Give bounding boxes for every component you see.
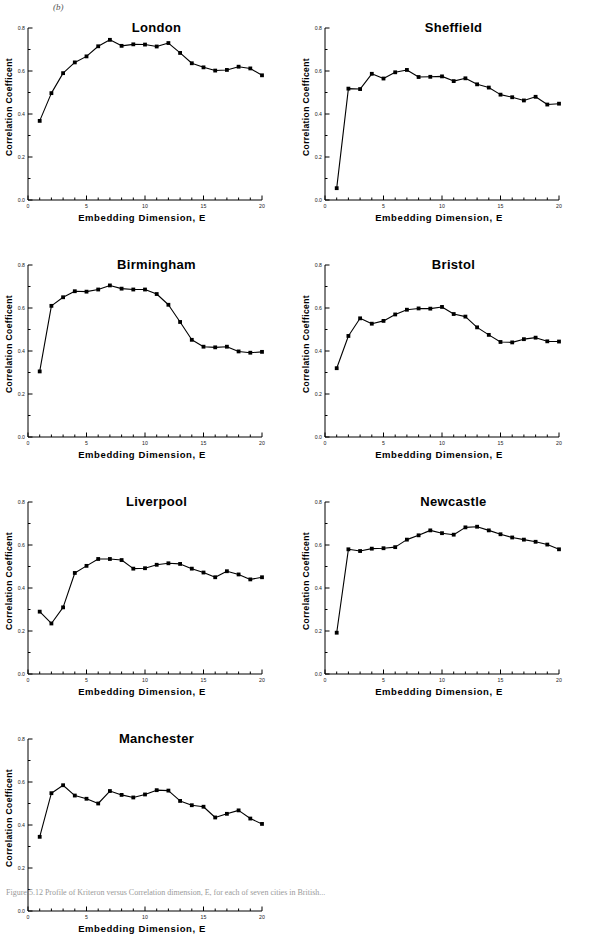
svg-text:0: 0 [324, 203, 327, 209]
svg-text:0.8: 0.8 [315, 499, 322, 505]
svg-text:0: 0 [27, 440, 30, 446]
svg-text:0.8: 0.8 [315, 25, 322, 31]
svg-text:0: 0 [324, 440, 327, 446]
svg-text:0.4: 0.4 [18, 585, 25, 591]
svg-text:5: 5 [382, 677, 385, 683]
svg-text:5: 5 [382, 440, 385, 446]
svg-text:0.6: 0.6 [18, 305, 25, 311]
svg-text:10: 10 [439, 203, 445, 209]
svg-text:15: 15 [201, 440, 207, 446]
chart-svg: 0.00.20.40.60.805101520 [297, 488, 594, 688]
chart-panel-birmingham: Birmingham Correlation Coefficent 0.00.2… [0, 251, 297, 488]
svg-text:0.6: 0.6 [315, 305, 322, 311]
svg-text:15: 15 [201, 914, 207, 920]
x-axis-label: Embedding Dimension, E [22, 449, 262, 460]
svg-text:0.6: 0.6 [18, 542, 25, 548]
svg-text:0: 0 [27, 203, 30, 209]
svg-text:10: 10 [142, 677, 148, 683]
chart-panel-newcastle: Newcastle Correlation Coefficent 0.00.20… [297, 488, 594, 725]
chart-svg: 0.00.20.40.60.805101520 [0, 488, 297, 688]
chart-svg: 0.00.20.40.60.805101520 [0, 251, 297, 451]
svg-text:20: 20 [259, 440, 265, 446]
svg-text:0.2: 0.2 [18, 628, 25, 634]
svg-text:15: 15 [201, 203, 207, 209]
chart-row: Manchester Correlation Coefficent 0.00.2… [0, 725, 595, 938]
svg-text:20: 20 [556, 440, 562, 446]
svg-text:0.0: 0.0 [18, 908, 25, 914]
chart-panel-liverpool: Liverpool Correlation Coefficent 0.00.20… [0, 488, 297, 725]
svg-text:0.6: 0.6 [315, 68, 322, 74]
svg-text:10: 10 [142, 914, 148, 920]
svg-text:20: 20 [259, 914, 265, 920]
svg-text:0.8: 0.8 [18, 262, 25, 268]
svg-text:0.0: 0.0 [18, 197, 25, 203]
chart-row: Liverpool Correlation Coefficent 0.00.20… [0, 488, 595, 725]
svg-text:0.0: 0.0 [315, 434, 322, 440]
svg-text:0: 0 [27, 677, 30, 683]
svg-text:0.8: 0.8 [18, 736, 25, 742]
svg-text:0.6: 0.6 [315, 542, 322, 548]
x-axis-label: Embedding Dimension, E [319, 212, 559, 223]
chart-panel-london: London Correlation Coefficent 0.00.20.40… [0, 14, 297, 251]
svg-text:0.0: 0.0 [315, 671, 322, 677]
chart-grid: London Correlation Coefficent 0.00.20.40… [0, 14, 595, 938]
svg-text:0.2: 0.2 [18, 391, 25, 397]
chart-svg: 0.00.20.40.60.805101520 [297, 14, 594, 214]
x-axis-label: Embedding Dimension, E [22, 212, 262, 223]
svg-text:0.2: 0.2 [315, 391, 322, 397]
svg-text:0.4: 0.4 [315, 585, 322, 591]
svg-text:0.6: 0.6 [18, 68, 25, 74]
svg-text:10: 10 [142, 440, 148, 446]
svg-text:0.2: 0.2 [315, 628, 322, 634]
figure-panel-label: (b) [53, 2, 64, 12]
svg-text:10: 10 [439, 677, 445, 683]
svg-text:15: 15 [498, 203, 504, 209]
svg-text:0.4: 0.4 [315, 348, 322, 354]
chart-panel-bristol: Bristol Correlation Coefficent 0.00.20.4… [297, 251, 594, 488]
svg-text:10: 10 [439, 440, 445, 446]
x-axis-label: Embedding Dimension, E [319, 449, 559, 460]
svg-text:15: 15 [498, 440, 504, 446]
svg-text:5: 5 [85, 203, 88, 209]
svg-text:5: 5 [85, 914, 88, 920]
chart-panel-sheffield: Sheffield Correlation Coefficent 0.00.20… [297, 14, 594, 251]
svg-text:0.2: 0.2 [18, 865, 25, 871]
chart-svg: 0.00.20.40.60.805101520 [0, 14, 297, 214]
svg-text:0.4: 0.4 [315, 111, 322, 117]
svg-text:15: 15 [201, 677, 207, 683]
svg-text:20: 20 [259, 677, 265, 683]
svg-text:20: 20 [556, 203, 562, 209]
svg-text:0.4: 0.4 [18, 822, 25, 828]
chart-panel-manchester: Manchester Correlation Coefficent 0.00.2… [0, 725, 297, 938]
svg-text:10: 10 [142, 203, 148, 209]
svg-text:0.0: 0.0 [18, 671, 25, 677]
svg-text:0.0: 0.0 [18, 434, 25, 440]
svg-text:0: 0 [27, 914, 30, 920]
svg-text:0.4: 0.4 [18, 111, 25, 117]
svg-text:20: 20 [556, 677, 562, 683]
svg-text:0.4: 0.4 [18, 348, 25, 354]
figure-caption: Figure 5.12 Profile of Kriteron versus C… [6, 888, 589, 899]
x-axis-label: Embedding Dimension, E [22, 686, 262, 697]
svg-text:0.2: 0.2 [315, 154, 322, 160]
svg-text:0.8: 0.8 [18, 25, 25, 31]
chart-row: Birmingham Correlation Coefficent 0.00.2… [0, 251, 595, 488]
chart-svg: 0.00.20.40.60.805101520 [297, 251, 594, 451]
x-axis-label: Embedding Dimension, E [319, 686, 559, 697]
svg-text:5: 5 [85, 440, 88, 446]
svg-text:0.6: 0.6 [18, 779, 25, 785]
svg-text:15: 15 [498, 677, 504, 683]
svg-text:0: 0 [324, 677, 327, 683]
svg-text:5: 5 [382, 203, 385, 209]
svg-text:0.2: 0.2 [18, 154, 25, 160]
svg-text:5: 5 [85, 677, 88, 683]
chart-row: London Correlation Coefficent 0.00.20.40… [0, 14, 595, 251]
x-axis-label: Embedding Dimension, E [22, 923, 262, 934]
svg-text:0.0: 0.0 [315, 197, 322, 203]
svg-text:0.8: 0.8 [315, 262, 322, 268]
svg-text:20: 20 [259, 203, 265, 209]
svg-text:0.8: 0.8 [18, 499, 25, 505]
